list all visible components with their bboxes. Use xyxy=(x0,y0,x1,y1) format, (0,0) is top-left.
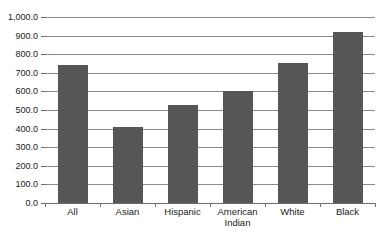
y-axis-tick xyxy=(41,129,46,130)
y-axis-tick xyxy=(41,184,46,185)
y-axis-tick xyxy=(41,91,46,92)
y-axis-tick xyxy=(41,166,46,167)
gridline xyxy=(45,54,375,55)
y-axis-tick-label: 400.0 xyxy=(0,125,38,134)
bar xyxy=(113,127,143,203)
bar xyxy=(333,32,363,203)
x-axis-tick-label: White xyxy=(265,206,320,217)
bar xyxy=(278,63,308,203)
y-axis-tick-label: 300.0 xyxy=(0,143,38,152)
gridline xyxy=(45,147,375,148)
y-axis-tick xyxy=(41,54,46,55)
y-axis-tick xyxy=(41,17,46,18)
y-axis-tick-label: 0.0 xyxy=(0,199,38,208)
y-axis-tick xyxy=(41,110,46,111)
bar xyxy=(58,65,88,203)
y-axis-tick-label: 1,000.0 xyxy=(0,13,38,22)
gridline xyxy=(45,91,375,92)
bar-chart: 1,000.0900.0800.0700.0600.0500.0400.0300… xyxy=(0,0,390,238)
y-axis-tick xyxy=(41,147,46,148)
y-axis-tick xyxy=(41,73,46,74)
x-axis-tick xyxy=(375,203,376,207)
y-axis-tick-label: 500.0 xyxy=(0,106,38,115)
bar xyxy=(168,105,198,203)
y-axis-tick-label: 600.0 xyxy=(0,87,38,96)
gridline xyxy=(45,166,375,167)
gridline xyxy=(45,184,375,185)
plot-area xyxy=(45,17,375,203)
x-axis-tick-label: Asian xyxy=(100,206,155,217)
y-axis-tick-label: 100.0 xyxy=(0,180,38,189)
y-axis-tick-label: 700.0 xyxy=(0,69,38,78)
gridline xyxy=(45,129,375,130)
y-axis-tick-label: 800.0 xyxy=(0,50,38,59)
x-axis-tick-label: All xyxy=(45,206,100,217)
gridline xyxy=(45,36,375,37)
y-axis-tick-label: 900.0 xyxy=(0,32,38,41)
x-axis-tick-label: Hispanic xyxy=(155,206,210,217)
chart-title xyxy=(0,0,390,3)
gridline xyxy=(45,17,375,18)
x-axis-tick-label: Black xyxy=(320,206,375,217)
x-axis-tick-label: AmericanIndian xyxy=(210,206,265,228)
gridline xyxy=(45,110,375,111)
gridline xyxy=(45,73,375,74)
y-axis-tick-label: 200.0 xyxy=(0,162,38,171)
bar xyxy=(223,91,253,203)
y-axis-tick xyxy=(41,36,46,37)
x-axis-labels: AllAsianHispanicAmericanIndianWhiteBlack xyxy=(45,206,375,238)
